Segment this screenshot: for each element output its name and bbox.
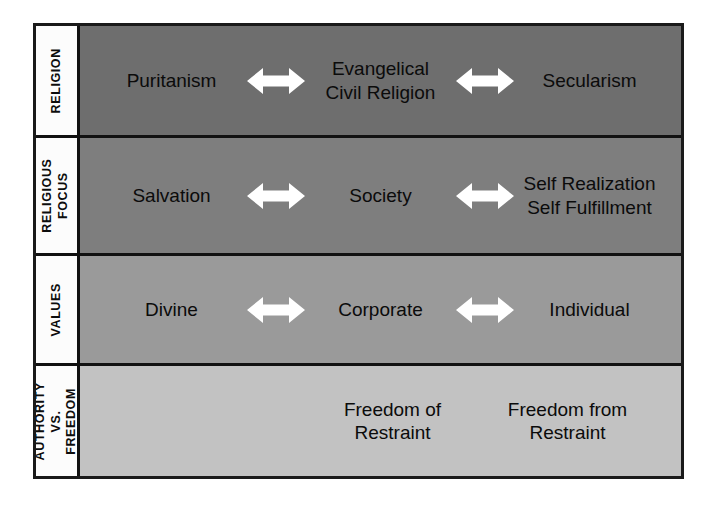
- row-label-text: AUTHORITY VS. FREEDOM: [36, 382, 80, 460]
- double-arrow-icon: [454, 181, 516, 211]
- term-label: Freedom of Restraint: [344, 398, 441, 444]
- double-arrow-icon: [245, 295, 307, 325]
- double-arrow-icon: [245, 66, 307, 96]
- row-content-religion: Puritanism Evangelical Civil Religion Se…: [80, 26, 681, 135]
- row-label-religion: RELIGION: [36, 26, 80, 135]
- term-label: Salvation: [132, 184, 210, 207]
- term-slot: Corporate: [307, 298, 454, 321]
- term-slot: Evangelical Civil Religion: [307, 57, 454, 103]
- term-label: Corporate: [338, 298, 423, 321]
- row-label-authority-vs-freedom: AUTHORITY VS. FREEDOM: [36, 366, 80, 476]
- term-label: Freedom from Restraint: [508, 398, 627, 444]
- term-slot: Salvation: [98, 184, 245, 207]
- row-label-text: RELIGIOUS FOCUS: [41, 158, 72, 232]
- double-arrow-icon: [454, 66, 516, 96]
- term-slot: Freedom from Restraint: [480, 398, 655, 444]
- double-arrow-icon: [245, 181, 307, 211]
- term-label: Individual: [549, 298, 629, 321]
- row-label-text: RELIGION: [49, 48, 65, 113]
- term-slot: Individual: [516, 298, 663, 321]
- double-arrow-icon: [454, 295, 516, 325]
- table-row: RELIGION Puritanism Evangelical Civil Re…: [36, 26, 681, 138]
- term-label: Divine: [145, 298, 198, 321]
- term-label: Secularism: [543, 69, 637, 92]
- row-content-values: Divine Corporate Individual: [80, 256, 681, 363]
- row-label-values: VALUES: [36, 256, 80, 363]
- table-row: VALUES Divine Corporate Individual: [36, 256, 681, 366]
- matrix-diagram: RELIGION Puritanism Evangelical Civil Re…: [33, 23, 684, 479]
- table-row: AUTHORITY VS. FREEDOM Freedom of Restrai…: [36, 366, 681, 476]
- term-label: Self Realization Self Fulfillment: [523, 172, 655, 218]
- row-content-religious-focus: Salvation Society Self Realization Self …: [80, 138, 681, 253]
- term-label: Puritanism: [127, 69, 217, 92]
- term-slot: Freedom of Restraint: [305, 398, 480, 444]
- term-slot: Puritanism: [98, 69, 245, 92]
- row-label-religious-focus: RELIGIOUS FOCUS: [36, 138, 80, 253]
- term-label: Society: [349, 184, 411, 207]
- row-content-authority-vs-freedom: Freedom of Restraint Freedom from Restra…: [80, 366, 681, 476]
- term-slot: Divine: [98, 298, 245, 321]
- term-slot: Society: [307, 184, 454, 207]
- term-label: Evangelical Civil Religion: [326, 57, 436, 103]
- table-row: RELIGIOUS FOCUS Salvation Society Self R…: [36, 138, 681, 256]
- row-label-text: VALUES: [49, 283, 65, 336]
- term-slot: Secularism: [516, 69, 663, 92]
- term-slot: Self Realization Self Fulfillment: [516, 172, 663, 218]
